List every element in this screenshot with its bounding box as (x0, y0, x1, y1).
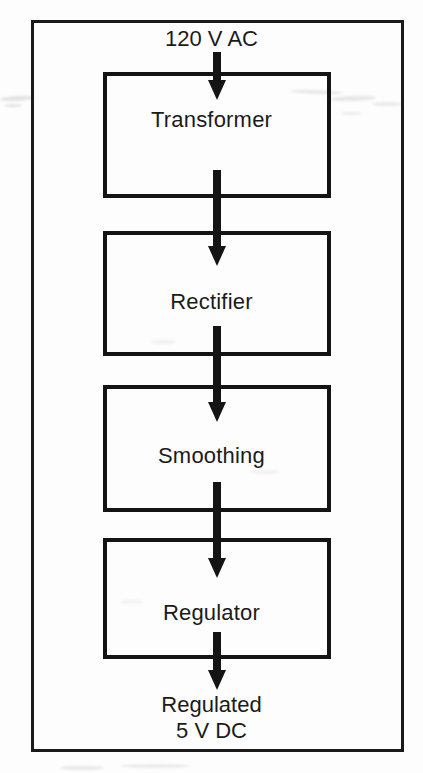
scan-artifact-smudge (4, 104, 22, 107)
scan-artifact-smudge (120, 764, 190, 768)
arrow-regulator-to-output (213, 632, 221, 690)
block-label-transformer: Transformer (0, 108, 423, 132)
block-label-rectifier: Rectifier (0, 290, 423, 314)
output-label-line-1: Regulated (0, 692, 423, 718)
block-label-smoothing: Smoothing (0, 444, 423, 468)
arrow-shaft (213, 632, 221, 672)
output-label-regulated-5v-dc: Regulated 5 V DC (0, 692, 423, 744)
scan-artifact-smudge (0, 95, 34, 102)
block-label-regulator: Regulator (0, 601, 423, 625)
scan-artifact-smudge (60, 766, 104, 770)
input-label-120v-ac: 120 V AC (0, 26, 423, 51)
output-label-line-2: 5 V DC (0, 718, 423, 744)
arrow-head-down-icon (208, 670, 226, 690)
